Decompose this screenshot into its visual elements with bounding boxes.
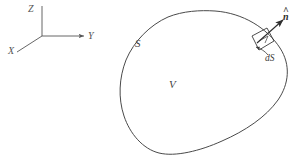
y-axis-label: Y [88, 31, 94, 41]
volume-label: V [169, 79, 176, 90]
patch-area-label: dS [265, 54, 275, 64]
surface-label: S [135, 38, 141, 49]
hat-accent-icon: ^ [283, 5, 289, 16]
closed-surface-outline [120, 11, 287, 155]
normal-vector-label: ^ n [283, 11, 289, 22]
diagram-canvas [0, 0, 299, 161]
x-axis-line [17, 36, 42, 52]
z-axis-label: Z [28, 4, 34, 14]
vector-calculus-diagram: Z Y X S V dS ^ n [0, 0, 299, 161]
x-axis-label: X [8, 46, 14, 56]
